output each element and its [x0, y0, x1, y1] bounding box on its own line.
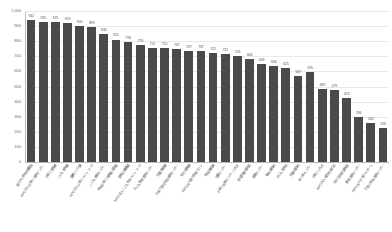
bar-value-label: 919 — [65, 18, 71, 22]
bar-value-label: 423 — [344, 93, 350, 97]
bar-rect — [99, 34, 108, 162]
bar-rect — [27, 20, 36, 162]
bar-value-label: 752 — [150, 43, 156, 47]
bar-rect — [366, 123, 375, 162]
bar-item[interactable]: 296 — [354, 11, 363, 162]
bar-item[interactable]: 715 — [221, 11, 230, 162]
bar-item[interactable]: 747 — [172, 11, 181, 162]
bar-rect — [281, 68, 290, 162]
bar-item[interactable]: 811 — [112, 11, 121, 162]
bar-chart: 1,0009008007006005004003002001000 942925… — [0, 0, 392, 232]
bar-value-label: 776 — [137, 40, 143, 44]
bar-rect — [245, 59, 254, 162]
bar-value-label: 893 — [89, 22, 95, 26]
bar-item[interactable]: 796 — [124, 11, 133, 162]
bar-value-label: 752 — [162, 43, 168, 47]
bar-rect — [63, 23, 72, 162]
bar-value-label: 479 — [332, 85, 338, 89]
y-tick-label: 800 — [14, 39, 21, 43]
bar-rect — [172, 49, 181, 162]
bar-item[interactable]: 752 — [160, 11, 169, 162]
bar-rect — [221, 54, 230, 162]
bar-value-label: 811 — [113, 34, 118, 38]
bar-rect — [209, 53, 218, 162]
y-tick-label: 200 — [14, 130, 21, 134]
bar-value-label: 636 — [271, 61, 277, 65]
bar-item[interactable]: 226 — [379, 11, 388, 162]
bar-value-label: 684 — [247, 54, 253, 58]
bar-rect — [51, 22, 60, 162]
bar-rect — [294, 76, 303, 162]
bar-item[interactable]: 569 — [294, 11, 303, 162]
bar-item[interactable]: 703 — [233, 11, 242, 162]
bar-value-label: 260 — [368, 118, 374, 122]
bar-item[interactable]: 722 — [209, 11, 218, 162]
bar-rect — [112, 40, 121, 162]
bar-value-label: 796 — [125, 37, 131, 41]
bar-rect — [87, 27, 96, 162]
bar-item[interactable]: 636 — [269, 11, 278, 162]
bar-item[interactable]: 846 — [99, 11, 108, 162]
bar-item[interactable]: 423 — [342, 11, 351, 162]
bar-rect — [342, 98, 351, 162]
bar-rect — [269, 66, 278, 162]
bar-item[interactable]: 925 — [51, 11, 60, 162]
bar-value-label: 296 — [356, 112, 362, 116]
y-tick-label: 600 — [14, 69, 21, 73]
bar-item[interactable]: 595 — [306, 11, 315, 162]
bars: 9429259259199008938468117967767527527477… — [25, 11, 389, 162]
bar-item[interactable]: 893 — [87, 11, 96, 162]
bar-item[interactable]: 479 — [330, 11, 339, 162]
y-tick-label: 500 — [14, 84, 21, 88]
bar-rect — [257, 64, 266, 162]
bar-value-label: 649 — [259, 59, 265, 63]
bar-value-label: 722 — [210, 48, 216, 52]
y-tick-label: 900 — [14, 24, 21, 28]
bar-rect — [197, 51, 206, 162]
bar-item[interactable]: 260 — [366, 11, 375, 162]
bar-item[interactable]: 942 — [27, 11, 36, 162]
bar-rect — [124, 42, 133, 162]
bar-rect — [233, 56, 242, 162]
bar-value-label: 625 — [283, 63, 289, 67]
bar-item[interactable]: 919 — [63, 11, 72, 162]
bar-item[interactable]: 625 — [281, 11, 290, 162]
bar-rect — [184, 51, 193, 162]
bar-value-label: 747 — [174, 44, 180, 48]
bar-item[interactable]: 684 — [245, 11, 254, 162]
bar-rect — [330, 90, 339, 162]
bar-item[interactable]: 649 — [257, 11, 266, 162]
y-tick-label: 1,000 — [11, 9, 21, 13]
y-tick-label: 300 — [14, 115, 21, 119]
bar-item[interactable]: 900 — [75, 11, 84, 162]
bar-rect — [39, 22, 48, 162]
bar-item[interactable]: 925 — [39, 11, 48, 162]
bar-rect — [136, 45, 145, 162]
bar-rect — [160, 48, 169, 162]
bar-value-label: 846 — [101, 29, 107, 33]
bar-value-label: 595 — [307, 67, 313, 71]
bar-item[interactable]: 776 — [136, 11, 145, 162]
bar-value-label: 737 — [198, 46, 204, 50]
bar-item[interactable]: 752 — [148, 11, 157, 162]
bar-value-label: 715 — [222, 49, 228, 53]
bar-value-label: 226 — [380, 123, 386, 127]
bar-rect — [318, 89, 327, 162]
bar-rect — [75, 26, 84, 162]
bar-value-label: 703 — [235, 51, 241, 55]
y-axis-tick-labels: 1,0009008007006005004003002001000 — [0, 11, 23, 162]
bar-value-label: 925 — [40, 17, 46, 21]
y-tick-label: 700 — [14, 54, 21, 58]
bar-value-label: 483 — [319, 84, 325, 88]
bar-item[interactable]: 483 — [318, 11, 327, 162]
bar-item[interactable]: 737 — [197, 11, 206, 162]
y-tick-label: 100 — [14, 145, 21, 149]
bar-item[interactable]: 737 — [184, 11, 193, 162]
bar-value-label: 900 — [77, 21, 83, 25]
y-tick-label: 0 — [19, 160, 21, 164]
bar-rect — [306, 72, 315, 162]
plot-area: 9429259259199008938468117967767527527477… — [25, 11, 389, 162]
bar-value-label: 737 — [186, 46, 192, 50]
y-tick-label: 400 — [14, 99, 21, 103]
bar-value-label: 942 — [28, 15, 34, 19]
